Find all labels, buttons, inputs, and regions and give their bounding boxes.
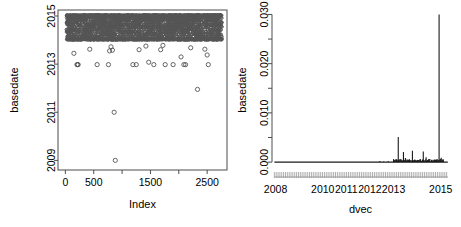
y-axis-tick-label: 2013 bbox=[45, 52, 57, 76]
x-axis-tick-label: 0 bbox=[62, 176, 68, 188]
x-axis-tick-label: 2012 bbox=[358, 183, 382, 195]
x-axis-tick-label: 2008 bbox=[264, 183, 288, 195]
data-point-outlier bbox=[147, 60, 151, 64]
y-axis-tick-label: 2015 bbox=[45, 4, 57, 28]
density-spikes bbox=[380, 14, 443, 162]
x-axis-tick-label: 2500 bbox=[195, 176, 219, 188]
data-point-outlier bbox=[113, 158, 117, 162]
x-axis-tick-label: 2010 bbox=[311, 183, 335, 195]
figure-canvas: 2009201120132015basedate050015002500Inde… bbox=[0, 0, 461, 227]
data-point-outlier bbox=[72, 51, 76, 55]
x-axis-tick-label: 500 bbox=[85, 176, 103, 188]
x-axis-tick-label: 2013 bbox=[382, 183, 406, 195]
y-axis-title: basedate bbox=[236, 67, 248, 112]
y-axis-tick-label: 2009 bbox=[45, 149, 57, 173]
data-point-outlier bbox=[171, 63, 175, 67]
x-axis-title: Index bbox=[129, 198, 156, 210]
data-point-outlier bbox=[152, 63, 156, 67]
data-point-outlier bbox=[144, 44, 148, 48]
scatter-plot-svg: 2009201120132015basedate050015002500Inde… bbox=[0, 0, 231, 227]
x-axis-title: dvec bbox=[349, 203, 373, 215]
y-axis-title: basedate bbox=[8, 67, 20, 112]
y-axis-tick-label: 0.020 bbox=[258, 50, 270, 76]
data-point-outlier bbox=[108, 49, 112, 53]
data-point-outlier bbox=[112, 110, 116, 114]
y-axis-tick-label: 0.000 bbox=[258, 149, 270, 175]
data-point-outlier bbox=[106, 63, 110, 67]
data-point-outlier bbox=[195, 87, 199, 91]
scatter-points bbox=[65, 13, 223, 162]
data-point-outlier bbox=[161, 43, 165, 47]
y-axis-tick-label: 2011 bbox=[45, 101, 57, 124]
y-axis-tick-label: 0.010 bbox=[258, 100, 270, 126]
data-point-outlier bbox=[95, 63, 99, 67]
data-point-outlier bbox=[206, 63, 210, 67]
x-axis-tick-label: 2011 bbox=[335, 183, 358, 195]
data-point-outlier bbox=[137, 48, 141, 52]
data-point-outlier bbox=[163, 63, 167, 67]
data-point-outlier bbox=[159, 48, 163, 52]
data-point-outlier bbox=[203, 47, 207, 51]
data-point-outlier bbox=[205, 53, 209, 57]
density-plot-svg: 0.0000.0100.0200.030basedate200820102011… bbox=[231, 0, 461, 227]
scatter-panel: 2009201120132015basedate050015002500Inde… bbox=[0, 0, 231, 227]
x-axis-tick-label: 1500 bbox=[139, 176, 163, 188]
data-point-outlier bbox=[179, 55, 183, 59]
x-axis-tick-label: 2015 bbox=[429, 183, 453, 195]
density-panel: 0.0000.0100.0200.030basedate200820102011… bbox=[231, 0, 461, 227]
y-axis-tick-label: 0.030 bbox=[258, 1, 270, 27]
data-point-outlier bbox=[189, 46, 193, 50]
data-point-outlier bbox=[88, 47, 92, 51]
